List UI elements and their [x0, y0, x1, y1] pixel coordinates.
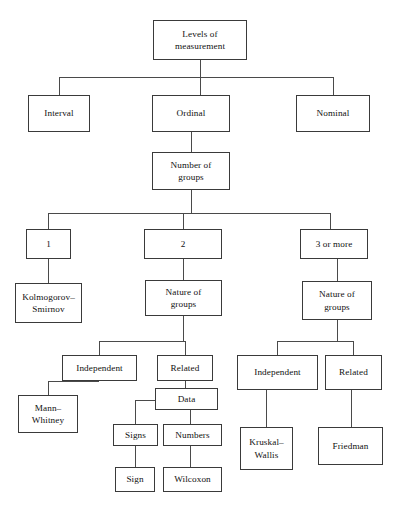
node-groups-two: 2: [144, 229, 222, 259]
node-label: Kolmogorov– Smirnov: [22, 291, 75, 315]
node-label: Number of groups: [171, 159, 212, 183]
node-levels-of-measurement: Levels of measurement: [153, 20, 247, 60]
node-kolmogorov-smirnov: Kolmogorov– Smirnov: [15, 283, 82, 323]
levels-of-measurement-flowchart: Levels of measurement Interval Ordinal N…: [0, 0, 400, 513]
node-interval: Interval: [28, 95, 90, 132]
node-label: Signs: [125, 429, 146, 441]
node-kruskal-wallis: Kruskal– Wallis: [240, 427, 293, 470]
node-number-of-groups: Number of groups: [152, 152, 230, 190]
node-label: Ordinal: [177, 107, 206, 119]
node-independent-two-groups: Independent: [62, 355, 137, 381]
node-numbers: Numbers: [163, 424, 222, 446]
node-sign: Sign: [115, 467, 155, 492]
node-nominal: Nominal: [296, 95, 370, 132]
node-related-two-groups: Related: [157, 355, 213, 381]
node-label: Related: [339, 366, 368, 378]
node-label: Related: [171, 362, 200, 374]
node-label: Sign: [126, 473, 143, 485]
node-data: Data: [155, 388, 218, 410]
node-label: Kruskal– Wallis: [249, 436, 283, 460]
node-label: Independent: [254, 366, 301, 378]
node-groups-three-or-more: 3 or more: [300, 229, 368, 259]
node-mann-whitney: Mann– Whitney: [18, 395, 78, 433]
node-label: 3 or more: [316, 238, 353, 250]
node-label: Levels of measurement: [175, 28, 225, 52]
node-label: Friedman: [332, 440, 368, 452]
node-groups-one: 1: [26, 229, 71, 259]
node-label: Nature of groups: [319, 288, 355, 312]
node-label: Interval: [44, 107, 73, 119]
node-nature-of-groups-two: Nature of groups: [145, 280, 222, 316]
node-nature-of-groups-three: Nature of groups: [302, 281, 372, 320]
node-friedman: Friedman: [318, 427, 383, 465]
node-signs: Signs: [113, 424, 158, 446]
node-label: Nature of groups: [166, 286, 202, 310]
node-label: Data: [178, 393, 196, 405]
node-label: Wilcoxon: [174, 473, 211, 485]
node-independent-three-groups: Independent: [237, 355, 318, 390]
node-label: Numbers: [175, 429, 209, 441]
node-label: 2: [181, 238, 186, 250]
node-label: Mann– Whitney: [32, 402, 64, 426]
node-related-three-groups: Related: [325, 355, 382, 390]
node-label: Nominal: [317, 107, 350, 119]
node-label: 1: [46, 238, 51, 250]
node-label: Independent: [76, 362, 123, 374]
node-ordinal: Ordinal: [152, 95, 230, 132]
node-wilcoxon: Wilcoxon: [163, 467, 222, 492]
